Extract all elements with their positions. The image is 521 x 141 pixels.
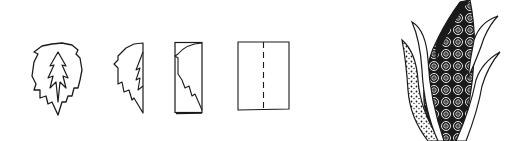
folded-paper-icon [172,40,208,116]
full-leaf-drawing [28,40,88,120]
paper-fold-icon [234,38,292,114]
corn-drawing [380,0,510,141]
leaf-icon [28,40,88,120]
half-leaf-icon [112,40,148,116]
folded-paper-drawing [172,40,208,116]
fold-line-paper-drawing [234,38,292,114]
half-leaf-drawing [112,40,148,116]
corn-icon [380,0,510,141]
